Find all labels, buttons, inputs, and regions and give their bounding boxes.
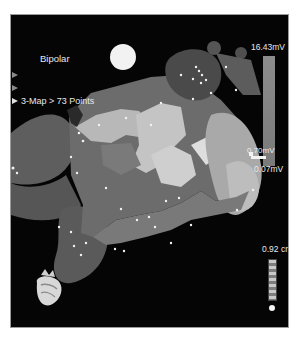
scale-min-label: 0.07mV (254, 164, 283, 174)
map-points-label[interactable]: 3-Map > 73 Points (21, 96, 94, 106)
ruler-label: 0.92 cm (262, 244, 289, 254)
ruler-scale (268, 259, 277, 301)
triangle-right-icon[interactable] (12, 72, 18, 78)
scale-marker-handle[interactable] (251, 156, 266, 159)
triangle-right-icon[interactable] (12, 98, 18, 104)
heart-orientation-icon[interactable] (33, 267, 65, 309)
ruler-dot-icon (269, 305, 275, 311)
triangle-right-icon[interactable] (12, 85, 18, 91)
light-sphere-icon (110, 44, 136, 70)
scale-max-label: 16.43mV (251, 42, 285, 52)
map-mode-label: Bipolar (40, 54, 70, 64)
map-viewer[interactable]: Bipolar 3-Map > 73 Points 16.43mV 0.70mV… (10, 14, 289, 328)
